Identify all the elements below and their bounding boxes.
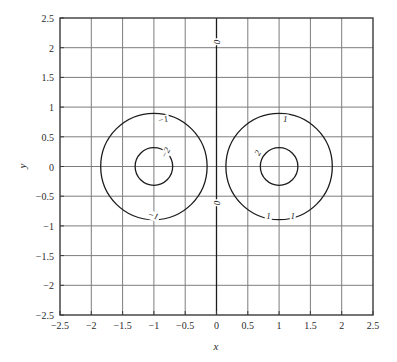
x-tick-label: 2 bbox=[339, 320, 344, 331]
x-tick-label: 0 bbox=[214, 320, 219, 331]
plot-canvas bbox=[0, 0, 397, 362]
y-tick-label: 2 bbox=[49, 42, 54, 53]
x-tick-label: −2.5 bbox=[51, 320, 69, 331]
y-tick-label: −2 bbox=[43, 280, 54, 291]
y-tick-label: 2.5 bbox=[42, 13, 55, 24]
contour-label: 1 bbox=[265, 211, 272, 220]
x-axis-label: x bbox=[214, 340, 219, 352]
x-tick-label: −0.5 bbox=[176, 320, 194, 331]
x-tick-label: −2 bbox=[86, 320, 97, 331]
x-tick-label: 1.5 bbox=[304, 320, 317, 331]
x-tick-label: 0.5 bbox=[242, 320, 255, 331]
y-tick-label: −1 bbox=[43, 220, 54, 231]
x-tick-label: 1 bbox=[277, 320, 282, 331]
x-tick-label: −1 bbox=[149, 320, 160, 331]
contour-label: 0 bbox=[212, 200, 221, 207]
contour-label: 1 bbox=[290, 211, 297, 220]
y-tick-label: −0.5 bbox=[36, 191, 54, 202]
y-tick-label: 0.5 bbox=[42, 131, 55, 142]
y-tick-label: 0 bbox=[49, 161, 54, 172]
contour-plot-figure: −2.5−2−1.5−1−0.500.511.522.5 −2.5−2−1.5−… bbox=[0, 0, 397, 362]
y-tick-label: −1.5 bbox=[36, 250, 54, 261]
contour-label: 1 bbox=[282, 114, 289, 123]
contour-label: 0 bbox=[212, 39, 221, 46]
y-tick-label: 1.5 bbox=[42, 72, 55, 83]
y-tick-label: 1 bbox=[49, 102, 54, 113]
y-tick-label: −2.5 bbox=[36, 310, 54, 321]
x-tick-label: 2.5 bbox=[367, 320, 380, 331]
y-axis-label: y bbox=[16, 164, 28, 169]
x-tick-label: −1.5 bbox=[114, 320, 132, 331]
